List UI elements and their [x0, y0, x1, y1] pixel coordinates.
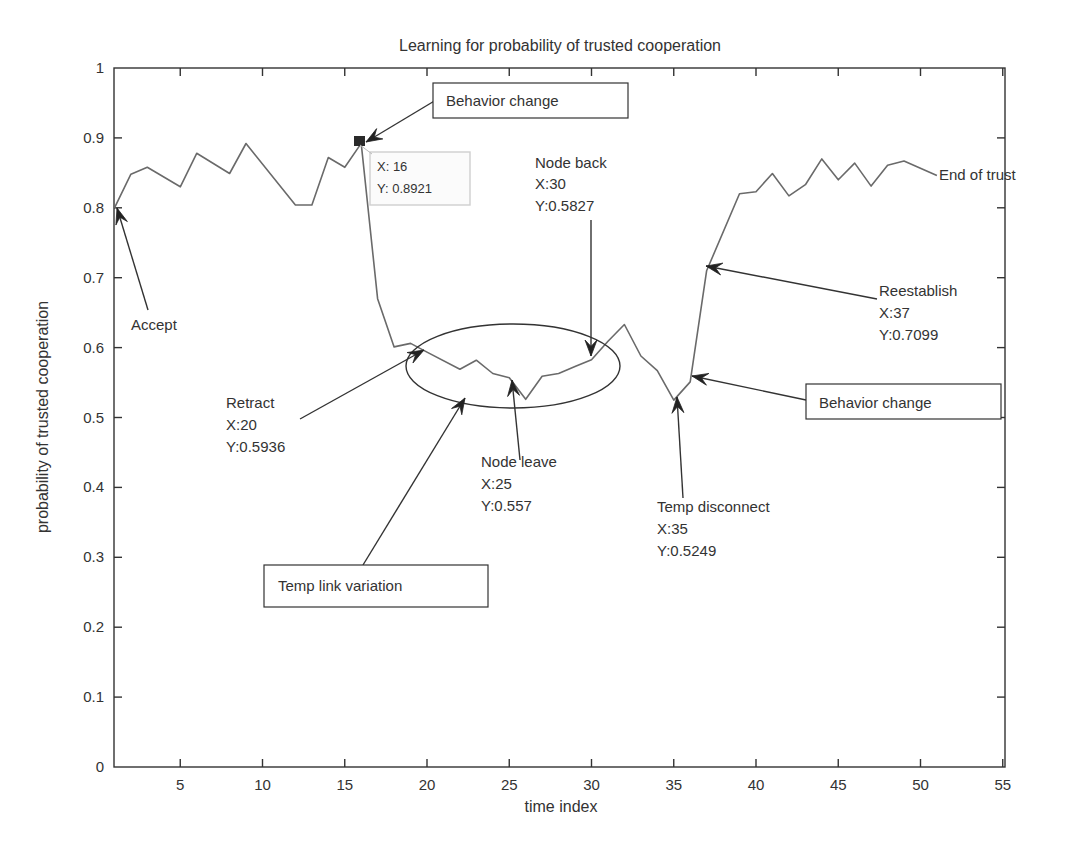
svg-text:Behavior change: Behavior change [446, 92, 559, 109]
svg-text:X:25: X:25 [481, 475, 512, 492]
x-tick-label: 20 [419, 776, 436, 793]
chart-title: Learning for probability of trusted coop… [399, 37, 721, 54]
arrowhead-icon [366, 129, 383, 142]
svg-text:Node back: Node back [535, 154, 607, 171]
annotation-temp-disconnect: Temp disconnect X:35 Y:0.5249 [657, 498, 770, 559]
datatip-x: X: 16 [377, 159, 407, 174]
y-tick-label: 0.3 [83, 548, 104, 565]
y-tick-label: 0.9 [83, 129, 104, 146]
annotation-reestablish: Reestablish X:37 Y:0.7099 [879, 282, 957, 343]
datatip-box: X: 16 Y: 0.8921 [370, 152, 470, 205]
y-tick-label: 0.4 [83, 478, 104, 495]
annotation-node-back: Node back X:30 Y:0.5827 [535, 154, 607, 214]
y-tick-label: 0 [96, 758, 104, 775]
svg-text:X:37: X:37 [879, 304, 910, 321]
svg-text:Y:0.7099: Y:0.7099 [879, 326, 938, 343]
svg-text:Y:0.5827: Y:0.5827 [535, 197, 594, 214]
x-tick-label: 55 [994, 776, 1011, 793]
svg-text:X:30: X:30 [535, 175, 566, 192]
x-tick-label: 45 [830, 776, 847, 793]
x-tick-label: 15 [336, 776, 353, 793]
y-tick-label: 0.1 [83, 688, 104, 705]
x-tick-label: 10 [254, 776, 271, 793]
svg-text:Retract: Retract [226, 394, 275, 411]
svg-text:Y:0.5936: Y:0.5936 [226, 438, 285, 455]
x-axis-label: time index [525, 798, 598, 815]
svg-text:Reestablish: Reestablish [879, 282, 957, 299]
annotation-accept: Accept [131, 316, 178, 333]
annotation-arrows [116, 100, 877, 565]
svg-text:X:35: X:35 [657, 520, 688, 537]
x-tick-label: 5 [176, 776, 184, 793]
y-tick-label: 0.5 [83, 409, 104, 426]
svg-text:Behavior change: Behavior change [819, 394, 932, 411]
y-tick-label: 0.8 [83, 199, 104, 216]
chart: Learning for probability of trusted coop… [0, 0, 1069, 860]
x-tick-label: 35 [665, 776, 682, 793]
y-axis-label: probability of trusted cooperation [34, 301, 51, 533]
x-tick-label: 40 [748, 776, 765, 793]
svg-text:Y:0.557: Y:0.557 [481, 497, 532, 514]
annotation-retract: Retract X:20 Y:0.5936 [226, 394, 285, 455]
data-line [115, 143, 937, 400]
x-tick-label: 25 [501, 776, 518, 793]
svg-text:Temp link variation: Temp link variation [278, 577, 402, 594]
y-tick-label: 1 [96, 59, 104, 76]
annotation-behavior-change-2: Behavior change [806, 384, 1001, 419]
y-tick-label: 0.7 [83, 269, 104, 286]
svg-text:Y:0.5249: Y:0.5249 [657, 542, 716, 559]
x-tick-label: 50 [912, 776, 929, 793]
annotation-end-of-trust: End of trust [939, 166, 1017, 183]
datatip-y: Y: 0.8921 [377, 181, 432, 196]
annotation-node-leave: Node leave X:25 Y:0.557 [481, 453, 557, 514]
svg-text:X:20: X:20 [226, 416, 257, 433]
x-tick-label: 30 [583, 776, 600, 793]
datatip-marker[interactable] [354, 136, 365, 146]
arrowhead-icon [407, 350, 424, 363]
annotation-behavior-change-1: Behavior change [433, 83, 628, 118]
y-tick-label: 0.6 [83, 339, 104, 356]
y-tick-label: 0.2 [83, 618, 104, 635]
annotation-temp-link-variation: Temp link variation [264, 565, 488, 607]
svg-text:Temp disconnect: Temp disconnect [657, 498, 770, 515]
svg-text:Node leave: Node leave [481, 453, 557, 470]
